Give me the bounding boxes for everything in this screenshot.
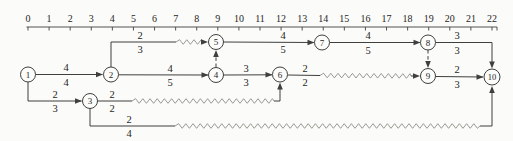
edge-label-top-6-9: 2 xyxy=(302,63,307,74)
arrowhead-3-6 xyxy=(277,83,283,90)
ruler-label-15: 15 xyxy=(339,13,349,24)
edge-label-bottom-6-9: 2 xyxy=(302,77,307,88)
event-node-label-10: 10 xyxy=(488,72,497,82)
edge-3-10-seg2 xyxy=(480,89,492,127)
edge-label-bottom-4-6: 3 xyxy=(243,77,248,88)
edge-label-bottom-1-2: 4 xyxy=(63,77,69,88)
arrowhead-8-9-dummy xyxy=(425,61,431,68)
edge-8-10-seg0 xyxy=(436,43,493,66)
arrowhead-2-4 xyxy=(202,72,209,78)
ruler-label-18: 18 xyxy=(403,13,413,24)
edge-label-top-4-6: 3 xyxy=(243,63,248,74)
arrowhead-7-8 xyxy=(414,40,421,46)
ruler-label-20: 20 xyxy=(445,13,455,24)
ruler-label-17: 17 xyxy=(382,13,392,24)
ruler-label-4: 4 xyxy=(110,13,115,24)
edge-label-bottom-9-10: 3 xyxy=(454,79,459,90)
event-node-label-3: 3 xyxy=(88,96,93,106)
arrowhead-3-10 xyxy=(489,86,495,93)
ruler-label-16: 16 xyxy=(360,13,370,24)
ruler-label-1: 1 xyxy=(47,13,52,24)
arrowhead-8-10 xyxy=(489,62,495,69)
arrowhead-4-5-dummy xyxy=(213,50,219,57)
edge-label-bottom-2-4: 5 xyxy=(167,77,172,88)
edge-label-top-3-10: 2 xyxy=(126,114,131,125)
ruler-label-3: 3 xyxy=(89,13,94,24)
edge-label-top-2-5: 2 xyxy=(137,30,142,41)
event-node-label-5: 5 xyxy=(214,37,219,47)
arrowhead-5-7 xyxy=(308,40,315,46)
ruler-label-11: 11 xyxy=(255,13,265,24)
ruler-label-6: 6 xyxy=(152,13,157,24)
arrowhead-6-9 xyxy=(413,73,420,79)
ruler-label-9: 9 xyxy=(215,13,220,24)
edge-label-top-7-8: 4 xyxy=(365,30,371,41)
ruler-label-14: 14 xyxy=(318,13,328,24)
edge-label-bottom-5-7: 5 xyxy=(280,44,285,55)
event-node-label-7: 7 xyxy=(320,38,325,48)
edge-3-10-seg0 xyxy=(90,109,175,127)
time-scaled-network-figure: 0123456789101112131415161718192021224423… xyxy=(0,0,513,141)
event-node-label-6: 6 xyxy=(278,70,283,80)
edge-label-top-1-2: 4 xyxy=(63,62,69,73)
event-node-label-2: 2 xyxy=(109,70,114,80)
edge-label-bottom-8-10: 3 xyxy=(454,45,459,56)
edge-label-top-9-10: 2 xyxy=(454,64,459,75)
arrowhead-1-3 xyxy=(75,98,82,104)
ruler-label-0: 0 xyxy=(26,13,31,24)
arrowhead-4-6 xyxy=(266,72,273,78)
edge-label-bottom-2-5: 3 xyxy=(137,44,142,55)
ruler-label-7: 7 xyxy=(173,13,178,24)
edge-label-bottom-1-3: 3 xyxy=(52,103,57,114)
edge-5-7-seg0 xyxy=(224,42,315,43)
ruler-label-19: 19 xyxy=(424,13,434,24)
ruler-label-5: 5 xyxy=(131,13,136,24)
ruler-label-22: 22 xyxy=(487,13,497,24)
edge-2-5-seg0 xyxy=(111,42,176,67)
network-diagram-canvas: 0123456789101112131415161718192021224423… xyxy=(0,0,513,141)
float-wavy-line-6-9 xyxy=(320,73,411,78)
ruler-label-10: 10 xyxy=(234,13,244,24)
edge-label-bottom-3-10: 4 xyxy=(126,128,132,139)
event-node-label-1: 1 xyxy=(26,70,31,80)
edge-9-10-seg0 xyxy=(436,77,484,78)
ruler-label-21: 21 xyxy=(466,13,476,24)
edge-label-top-8-10: 3 xyxy=(454,30,459,41)
ruler-label-2: 2 xyxy=(68,13,73,24)
edge-label-top-5-7: 4 xyxy=(280,30,286,41)
ruler-label-8: 8 xyxy=(194,13,199,24)
event-node-label-8: 8 xyxy=(426,38,431,48)
edge-6-9-seg0 xyxy=(288,75,321,76)
ruler-label-13: 13 xyxy=(297,13,307,24)
ruler-label-12: 12 xyxy=(276,13,286,24)
edge-label-bottom-3-6: 2 xyxy=(109,103,114,114)
edge-label-top-1-3: 2 xyxy=(52,89,57,100)
edge-label-top-2-4: 4 xyxy=(167,63,173,74)
arrowhead-2-5 xyxy=(201,39,208,45)
float-wavy-line-2-5 xyxy=(176,40,204,45)
edge-label-bottom-7-8: 5 xyxy=(365,45,370,56)
arrowhead-9-10 xyxy=(477,74,484,80)
arrowhead-1-2 xyxy=(96,72,103,78)
float-wavy-line-3-6 xyxy=(132,99,274,104)
edge-label-top-3-6: 2 xyxy=(109,89,114,100)
float-wavy-line-3-10 xyxy=(175,124,480,129)
event-node-label-4: 4 xyxy=(214,70,219,80)
event-node-label-9: 9 xyxy=(426,71,431,81)
